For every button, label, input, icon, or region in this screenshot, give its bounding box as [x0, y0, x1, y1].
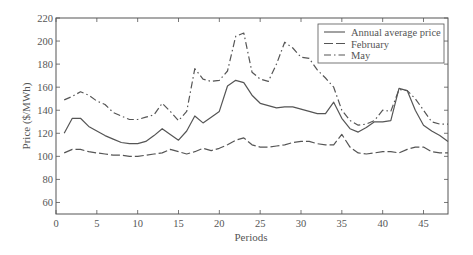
x-tick-label: 40: [377, 218, 388, 229]
y-tick-label: 120: [37, 128, 53, 139]
x-tick-label: 10: [132, 218, 143, 229]
legend-label-annual: Annual average price: [351, 27, 441, 38]
y-axis-label: Price ($/MWh): [20, 82, 33, 149]
y-tick-label: 60: [43, 197, 54, 208]
x-tick-label: 0: [53, 218, 58, 229]
legend: Annual average price February May: [318, 24, 444, 63]
price-chart: 051015202530354045 608010012014016018020…: [0, 0, 473, 255]
y-tick-label: 220: [37, 13, 53, 24]
chart-canvas: 051015202530354045 608010012014016018020…: [0, 0, 473, 255]
x-tick-label: 5: [94, 218, 99, 229]
x-axis-label: Periods: [235, 231, 268, 243]
series-annual-average-price: [64, 80, 448, 143]
x-tick-label: 20: [214, 218, 225, 229]
series-february: [64, 134, 448, 156]
y-tick-label: 140: [37, 105, 53, 116]
legend-label-may: May: [351, 50, 371, 61]
y-tick-label: 80: [43, 174, 54, 185]
x-tick-label: 15: [173, 218, 184, 229]
x-tick-label: 45: [418, 218, 429, 229]
y-tick-label: 200: [37, 36, 53, 47]
y-tick-label: 160: [37, 82, 53, 93]
y-tick-label: 180: [37, 59, 53, 70]
y-tick-label: 100: [37, 151, 53, 162]
legend-label-february: February: [351, 39, 390, 50]
x-tick-label: 25: [255, 218, 266, 229]
x-tick-label: 30: [296, 218, 307, 229]
x-tick-label: 35: [337, 218, 348, 229]
